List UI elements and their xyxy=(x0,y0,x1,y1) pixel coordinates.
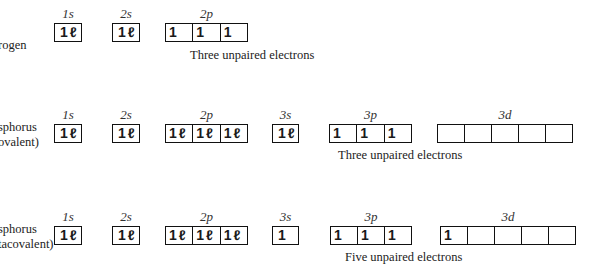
orbital-box-3s: 1 xyxy=(272,226,299,245)
orbital-cell xyxy=(491,125,518,142)
orbital-label-1s: 1s xyxy=(48,107,88,123)
orbital-label-2p: 2p xyxy=(187,209,227,225)
orbital-cell: 1ℓ xyxy=(220,227,247,244)
element-label-line: rogen xyxy=(0,38,26,53)
orbital-cell: 1 xyxy=(192,24,219,41)
element-label-line: ovalent) xyxy=(0,135,39,150)
orbital-cell xyxy=(518,125,545,142)
orbital-label-3s: 3s xyxy=(266,107,306,123)
unpaired-electrons-note: Three unpaired electrons xyxy=(190,48,314,63)
orbital-cell xyxy=(494,227,521,244)
orbital-cell xyxy=(548,227,575,244)
orbital-cell: 1ℓ xyxy=(192,227,219,244)
orbital-label-2p: 2p xyxy=(187,6,227,22)
orbital-cell: 1 xyxy=(384,227,411,244)
orbital-cell: 1 xyxy=(441,227,467,244)
element-label-line: tacovalent) xyxy=(0,237,54,252)
orbital-cell: 1ℓ xyxy=(166,227,192,244)
orbital-box-2s: 1ℓ xyxy=(112,124,140,143)
orbital-cell: 1ℓ xyxy=(113,227,139,244)
orbital-label-3p: 3p xyxy=(351,107,391,123)
orbital-box-1s: 1ℓ xyxy=(54,23,82,42)
orbital-label-2s: 2s xyxy=(106,6,146,22)
orbital-cell xyxy=(521,227,548,244)
orbital-cell: 1ℓ xyxy=(113,24,139,41)
orbital-cell: 1ℓ xyxy=(166,125,192,142)
orbital-box-3p: 111 xyxy=(329,124,412,143)
unpaired-electrons-note: Five unpaired electrons xyxy=(345,250,462,265)
orbital-label-3s: 3s xyxy=(266,209,306,225)
orbital-box-3s: 1ℓ xyxy=(272,124,299,143)
orbital-cell xyxy=(545,125,572,142)
orbital-box-2p: 1ℓ1ℓ1ℓ xyxy=(165,124,248,143)
orbital-cell: 1 xyxy=(220,24,247,41)
orbital-box-2s: 1ℓ xyxy=(112,23,140,42)
orbital-box-2p: 1ℓ1ℓ1ℓ xyxy=(165,226,248,245)
orbital-cell: 1ℓ xyxy=(55,125,81,142)
orbital-cell: 1ℓ xyxy=(55,227,81,244)
orbital-cell: 1ℓ xyxy=(192,125,219,142)
orbital-cell: 1 xyxy=(166,24,192,41)
orbital-label-3d: 3d xyxy=(485,107,525,123)
orbital-cell: 1ℓ xyxy=(273,125,298,142)
orbital-cell: 1ℓ xyxy=(55,24,81,41)
orbital-label-3d: 3d xyxy=(488,209,528,225)
orbital-label-2s: 2s xyxy=(106,209,146,225)
orbital-box-1s: 1ℓ xyxy=(54,124,82,143)
orbital-cell xyxy=(464,125,491,142)
orbital-cell: 1ℓ xyxy=(113,125,139,142)
orbital-label-1s: 1s xyxy=(48,6,88,22)
orbital-label-2s: 2s xyxy=(106,107,146,123)
orbital-cell xyxy=(467,227,494,244)
orbital-cell: 1 xyxy=(356,125,383,142)
orbital-label-3p: 3p xyxy=(351,209,391,225)
orbital-cell: 1 xyxy=(330,125,356,142)
orbital-cell xyxy=(438,125,464,142)
element-label-line: sphorus xyxy=(0,120,39,135)
orbital-box-3p: 111 xyxy=(330,226,412,245)
orbital-cell: 1ℓ xyxy=(220,125,247,142)
element-label: sphorustacovalent) xyxy=(0,222,54,252)
orbital-cell: 1 xyxy=(331,227,357,244)
orbital-label-1s: 1s xyxy=(48,209,88,225)
element-label-line: sphorus xyxy=(0,222,54,237)
orbital-box-1s: 1ℓ xyxy=(54,226,82,245)
orbital-box-2p: 111 xyxy=(165,23,248,42)
orbital-label-2p: 2p xyxy=(187,107,227,123)
element-label: sphorusovalent) xyxy=(0,120,39,150)
orbital-cell: 1 xyxy=(357,227,384,244)
orbital-box-3d: 1 xyxy=(440,226,576,245)
unpaired-electrons-note: Three unpaired electrons xyxy=(338,148,462,163)
orbital-cell: 1 xyxy=(273,227,298,244)
orbital-box-3d xyxy=(437,124,573,143)
orbital-cell: 1 xyxy=(384,125,411,142)
element-label: rogen xyxy=(0,38,26,53)
orbital-box-2s: 1ℓ xyxy=(112,226,140,245)
